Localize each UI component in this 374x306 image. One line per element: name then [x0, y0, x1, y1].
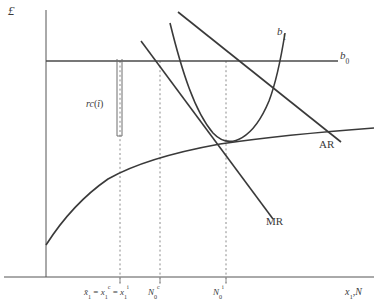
tick-1-part-8: 1 — [124, 294, 127, 300]
curve-label-b0-sub: 0 — [346, 57, 350, 66]
x-tick-label-2: N0c — [148, 286, 160, 299]
tick-1-part-9: i — [127, 284, 129, 290]
curve-label-b1-sub: 1 — [283, 33, 287, 42]
curve-label-ar: AR — [319, 139, 334, 150]
tick-3-part-2: i — [222, 284, 224, 290]
rc-label-paren-close: ) — [100, 98, 103, 109]
curve-label-mr: MR — [266, 216, 283, 227]
curve-label-b0: b0 — [340, 50, 349, 64]
x-axis-label: x1,N — [345, 287, 362, 300]
curve-ar — [178, 12, 341, 142]
tick-3-part-1: 0 — [219, 294, 222, 300]
economics-diagram: £ x1,N b1 b0 AR MR rc(î) x̄1 = x1c = x1i… — [0, 0, 374, 306]
x-tick-label-3: N0i — [213, 286, 224, 299]
x-tick-label-1: x̄1 = x1c = x1i — [84, 286, 129, 299]
y-axis-label: £ — [8, 4, 15, 17]
diagram-canvas — [0, 0, 374, 306]
curve-label-b1-base: b — [277, 25, 283, 37]
tick-1-part-1: 1 — [88, 294, 91, 300]
rc-label-base: rc — [86, 98, 94, 109]
rc-bracket-label: rc(î) — [86, 99, 103, 109]
tick-1-part-2: = — [91, 287, 101, 297]
x-axis-label-sub: 1 — [349, 293, 352, 300]
tick-1-part-6: = — [110, 287, 120, 297]
tick-1-part-4: 1 — [105, 294, 108, 300]
curve-label-b0-base: b — [340, 49, 346, 61]
tick-2-part-2: c — [157, 284, 160, 290]
tick-2-part-1: 0 — [154, 294, 157, 300]
x-axis-label-rest: ,N — [353, 286, 362, 297]
curve-b1 — [170, 23, 285, 141]
curve-label-b1: b1 — [277, 26, 286, 40]
curve-mr — [141, 41, 273, 219]
